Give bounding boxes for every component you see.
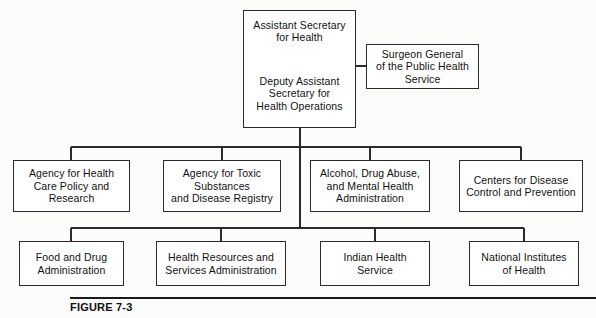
deputy-assistant-secretary-title: Deputy Assistant Secretary for Health Op…	[256, 75, 342, 112]
node-text-line: Service	[357, 264, 393, 276]
node-agency-for-health-care-policy-and-research: Agency for Health Care Policy and Resear…	[13, 160, 130, 212]
node-text-line: and Disease Registry	[171, 192, 273, 204]
node-text-line: Care Policy and	[34, 180, 110, 192]
node-food-and-drug-administration: Food and Drug Administration	[19, 241, 124, 286]
node-text-line: Health Operations	[256, 100, 342, 112]
node-text-line: Control and Prevention	[466, 186, 576, 198]
node-text-line: for Health	[276, 31, 323, 43]
node-assistant-secretary-for-health: Assistant Secretary for Health Deputy As…	[243, 10, 356, 128]
assistant-secretary-title: Assistant Secretary for Health	[253, 19, 345, 44]
node-indian-health-service: Indian Health Service	[320, 241, 430, 286]
node-text-line: Secretary for	[269, 87, 330, 99]
node-centers-for-disease-control-and-prevention: Centers for Disease Control and Preventi…	[459, 160, 583, 212]
org-chart: Assistant Secretary for Health Deputy As…	[0, 0, 596, 318]
node-text-line: of the Public Health	[376, 60, 469, 72]
node-surgeon-general: Surgeon General of the Public Health Ser…	[366, 44, 479, 89]
node-text-line: Services Administration	[165, 264, 276, 276]
node-text-line: of Health	[503, 264, 546, 276]
node-agency-for-toxic-substances-and-disease-registry: Agency for Toxic Substances and Disease …	[163, 160, 281, 212]
node-text-line: Service	[405, 73, 441, 85]
node-text-line: Substances	[194, 180, 250, 192]
node-text-line: National Institutes	[481, 251, 566, 263]
figure-caption: FIGURE 7-3	[70, 301, 133, 313]
node-text-line: Administration	[38, 264, 106, 276]
node-alcohol-drug-abuse-and-mental-health-administration: Alcohol, Drug Abuse, and Mental Health A…	[310, 160, 430, 212]
node-text-line: Administration	[336, 192, 404, 204]
node-text-line: Surgeon General	[382, 48, 463, 60]
node-text-line: Indian Health	[343, 251, 406, 263]
node-text-line: Centers for Disease	[474, 174, 569, 186]
node-text-line: Deputy Assistant	[260, 75, 340, 87]
node-text-line: Agency for Health	[29, 167, 114, 179]
figure-caption-divider	[70, 297, 596, 299]
node-text-line: Health Resources and	[168, 251, 274, 263]
node-national-institutes-of-health: National Institutes of Health	[469, 241, 579, 286]
node-text-line: Assistant Secretary	[253, 19, 345, 31]
node-health-resources-and-services-administration: Health Resources and Services Administra…	[156, 241, 286, 286]
node-text-line: Alcohol, Drug Abuse,	[320, 167, 420, 179]
node-text-line: Research	[49, 192, 95, 204]
node-text-line: and Mental Health	[327, 180, 414, 192]
node-text-line: Food and Drug	[36, 251, 107, 263]
node-text-line: Agency for Toxic	[183, 167, 261, 179]
